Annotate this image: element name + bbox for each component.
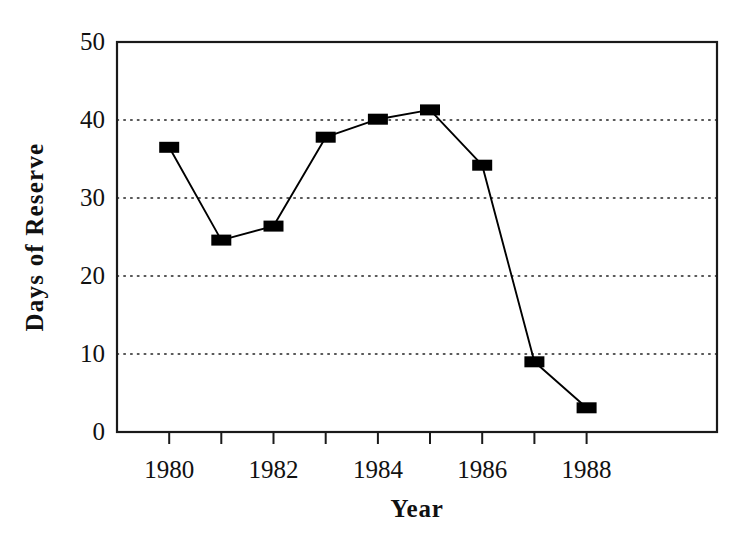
x-axis-title: Year bbox=[117, 495, 717, 523]
data-point-1983 bbox=[316, 132, 336, 143]
x-axis-ticks bbox=[169, 432, 586, 444]
data-point-1982 bbox=[264, 221, 284, 232]
xtick-label-1986: 1986 bbox=[457, 456, 507, 484]
data-point-1987 bbox=[524, 356, 544, 367]
y-axis-title: Days of Reserve bbox=[0, 0, 70, 474]
plot-background bbox=[117, 42, 717, 432]
y-axis-title-text: Days of Reserve bbox=[21, 143, 49, 332]
data-point-1988 bbox=[577, 402, 597, 413]
xtick-label-1982: 1982 bbox=[249, 456, 299, 484]
chart-figure: 50 40 30 20 10 0 1980 1982 1984 1986 198… bbox=[0, 0, 751, 550]
data-point-1980 bbox=[159, 142, 179, 153]
x-axis-title-text: Year bbox=[390, 495, 443, 522]
xtick-label-1988: 1988 bbox=[562, 456, 612, 484]
data-point-1986 bbox=[472, 160, 492, 171]
data-point-1984 bbox=[368, 114, 388, 125]
data-point-1981 bbox=[211, 235, 231, 246]
xtick-label-1980: 1980 bbox=[144, 456, 194, 484]
data-point-1985 bbox=[420, 104, 440, 115]
xtick-label-1984: 1984 bbox=[353, 456, 403, 484]
